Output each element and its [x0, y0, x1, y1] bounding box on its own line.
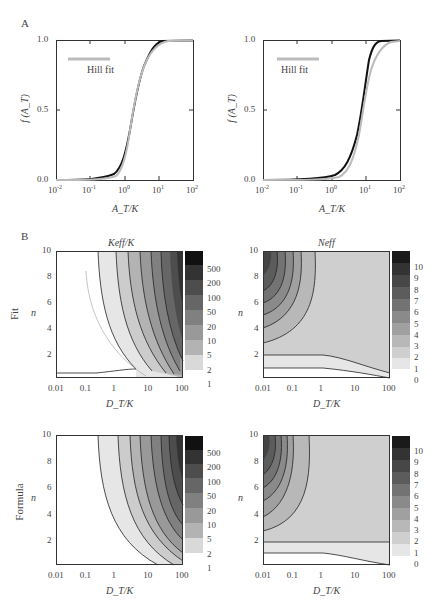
colorbar-label: 2 — [207, 365, 212, 375]
xtick: 102 — [393, 184, 405, 195]
contour-formula-neff — [263, 435, 391, 566]
xtick: 101 — [359, 184, 371, 195]
colorbar-label: 2 — [414, 536, 419, 546]
xtick: 10 — [143, 383, 152, 393]
ytick: 0.5 — [244, 104, 255, 114]
colorbar-label: 500 — [207, 264, 221, 274]
colorbar-label: 5 — [414, 503, 419, 513]
colorbar-label: 10 — [414, 446, 423, 456]
ytick: 1.0 — [244, 34, 255, 44]
colorbar-label: 0 — [414, 559, 419, 569]
panel-label-b: B — [21, 230, 28, 242]
colorbar-formula-keff — [185, 436, 203, 556]
ytick: 4 — [47, 323, 52, 333]
xtick: 100 — [382, 383, 396, 393]
xtick: 1 — [112, 570, 117, 580]
title-neff: Neff — [318, 237, 335, 248]
colorbar-formula-neff — [392, 436, 410, 556]
colorbar-fit-keff — [185, 251, 203, 379]
colorbar-label: 4 — [414, 514, 419, 524]
xtick: 101 — [152, 184, 164, 195]
panel-label-a: A — [21, 17, 29, 29]
ytick: 6 — [254, 297, 259, 307]
xtick: 10-2 — [255, 184, 269, 195]
xtick: 10 — [350, 383, 359, 393]
ytick: 2 — [47, 349, 52, 359]
colorbar-label: 4 — [414, 330, 419, 340]
ytick: 10 — [249, 429, 258, 439]
colorbar-label: 7 — [414, 296, 419, 306]
colorbar-label: 1 — [414, 364, 419, 374]
ytick: 2 — [254, 349, 259, 359]
colorbar-label: 100 — [207, 293, 221, 303]
xtick: 1 — [112, 383, 117, 393]
x-axis-label: D_T/K — [313, 398, 340, 409]
ytick: 8 — [47, 271, 52, 281]
ytick: 6 — [47, 482, 52, 492]
colorbar-label: 8 — [414, 285, 419, 295]
colorbar-label: 5 — [207, 350, 212, 360]
xtick: 100 — [175, 570, 189, 580]
colorbar-label: 3 — [414, 525, 419, 535]
xtick: 0.1 — [287, 383, 298, 393]
ytick: 6 — [47, 297, 52, 307]
xtick: 100 — [382, 570, 396, 580]
xtick: 0.01 — [48, 570, 64, 580]
x-axis-label: A_T/K — [112, 203, 138, 214]
row-label-fit: Fit — [8, 308, 20, 320]
y-axis-label: n — [31, 492, 36, 503]
colorbar-label: 5 — [207, 534, 212, 544]
plot-a-left — [56, 40, 194, 181]
colorbar-label: 100 — [207, 477, 221, 487]
colorbar-label: 2 — [207, 549, 212, 559]
xtick: 0.1 — [80, 383, 91, 393]
contour-fit-neff — [263, 251, 391, 379]
xtick: 0.01 — [255, 383, 271, 393]
ytick: 0.0 — [244, 174, 255, 184]
ytick: 10 — [42, 429, 51, 439]
legend-label-hill-fit: Hill fit — [281, 64, 308, 75]
colorbar-label: 3 — [414, 341, 419, 351]
y-axis-label: n — [31, 307, 36, 318]
colorbar-label: 10 — [207, 336, 216, 346]
xtick: 0.01 — [48, 383, 64, 393]
colorbar-label: 500 — [207, 448, 221, 458]
y-axis-label: n — [238, 492, 243, 503]
colorbar-label: 2 — [414, 352, 419, 362]
ytick: 0.5 — [37, 104, 48, 114]
ytick: 6 — [254, 482, 259, 492]
xtick: 10 — [143, 570, 152, 580]
colorbar-label: 9 — [414, 457, 419, 467]
colorbar-label: 200 — [207, 462, 221, 472]
ytick: 8 — [47, 456, 52, 466]
colorbar-label: 5 — [414, 319, 419, 329]
ytick: 10 — [42, 245, 51, 255]
plot-a-right — [263, 40, 401, 181]
colorbar-label: 50 — [207, 491, 216, 501]
legend-label-hill-fit: Hill fit — [87, 64, 114, 75]
ytick: 4 — [254, 323, 259, 333]
xtick: 10 — [350, 570, 359, 580]
colorbar-label: 1 — [414, 548, 419, 558]
colorbar-label: 7 — [414, 480, 419, 490]
colorbar-label: 20 — [207, 506, 216, 516]
colorbar-label: 20 — [207, 322, 216, 332]
colorbar-label: 200 — [207, 278, 221, 288]
xtick: 10-1 — [82, 184, 96, 195]
colorbar-label: 0 — [414, 375, 419, 385]
colorbar-label: 10 — [207, 520, 216, 530]
y-axis-label: f (A_T) — [226, 94, 237, 123]
colorbar-label: 1 — [207, 563, 212, 573]
x-axis-label: D_T/K — [313, 585, 340, 596]
ytick: 2 — [47, 535, 52, 545]
contour-fit-keff — [56, 251, 184, 379]
colorbar-label: 50 — [207, 307, 216, 317]
y-axis-label: f (A_T) — [19, 94, 30, 123]
colorbar-label: 1 — [207, 379, 212, 389]
xtick: 100 — [325, 184, 337, 195]
ytick: 10 — [249, 245, 258, 255]
xtick: 1 — [319, 570, 324, 580]
xtick: 0.1 — [287, 570, 298, 580]
xtick: 100 — [175, 383, 189, 393]
x-axis-label: D_T/K — [106, 398, 133, 409]
